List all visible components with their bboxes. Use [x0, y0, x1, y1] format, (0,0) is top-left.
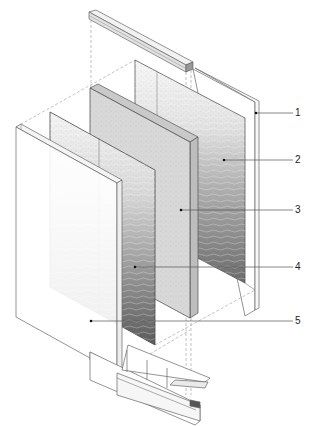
callout-label-3: 3 — [295, 205, 301, 215]
callout-label-5: 5 — [295, 316, 301, 326]
top-rail — [89, 10, 193, 72]
callout-label-4: 4 — [295, 262, 301, 272]
diagram-canvas — [0, 0, 316, 426]
callout-label-1: 1 — [295, 108, 301, 118]
callout-label-2: 2 — [295, 155, 301, 165]
exploded-assembly-diagram: 1 2 3 4 5 — [0, 0, 316, 426]
